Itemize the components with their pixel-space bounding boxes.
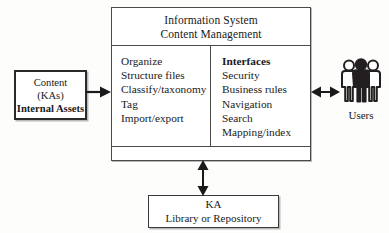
users-group: Users bbox=[338, 58, 384, 128]
main-box-columns: Organize Structure files Classify/taxono… bbox=[112, 46, 310, 147]
interface-item-navigation: Navigation bbox=[222, 97, 310, 111]
content-box-line-1: Content bbox=[34, 76, 68, 89]
interface-item-security: Security bbox=[222, 68, 310, 82]
ka-box-line-2: Library or Repository bbox=[166, 212, 262, 226]
information-system-box: Information System Content Management Or… bbox=[111, 7, 311, 161]
interface-item-search: Search bbox=[222, 111, 310, 125]
ka-box-line-1: KA bbox=[206, 198, 222, 212]
ka-library-repository-box: KA Library or Repository bbox=[148, 195, 279, 228]
users-label: Users bbox=[338, 109, 384, 122]
function-item-import-export: Import/export bbox=[121, 111, 210, 125]
arrow-main-to-users-bidirectional bbox=[311, 85, 340, 99]
header-line-1: Information System bbox=[164, 13, 257, 27]
content-management-functions-column: Organize Structure files Classify/taxono… bbox=[112, 46, 211, 146]
function-item-organize: Organize bbox=[121, 54, 210, 68]
user-figure-center bbox=[353, 59, 369, 101]
main-box-footer-strip bbox=[112, 147, 310, 161]
function-item-tag: Tag bbox=[121, 97, 210, 111]
interface-item-mapping-index: Mapping/index bbox=[222, 125, 310, 139]
header-line-2: Content Management bbox=[160, 27, 261, 41]
content-box-line-2: (KAs) bbox=[37, 89, 63, 102]
interface-item-business-rules: Business rules bbox=[222, 82, 310, 96]
function-item-structure-files: Structure files bbox=[121, 68, 210, 82]
interfaces-heading: Interfaces bbox=[222, 54, 310, 68]
diagram-canvas: Information System Content Management Or… bbox=[0, 0, 389, 233]
main-box-header: Information System Content Management bbox=[112, 8, 310, 46]
arrow-content-to-main bbox=[86, 85, 113, 99]
users-group-icon bbox=[338, 58, 384, 106]
content-box-line-3: Internal Assets bbox=[17, 102, 84, 115]
function-item-classify-taxonomy: Classify/taxonomy bbox=[121, 82, 210, 96]
content-kas-box: Content (KAs) Internal Assets bbox=[14, 70, 87, 120]
arrow-main-to-ka-bidirectional bbox=[196, 160, 210, 196]
interfaces-column: Interfaces Security Business rules Navig… bbox=[211, 46, 310, 146]
